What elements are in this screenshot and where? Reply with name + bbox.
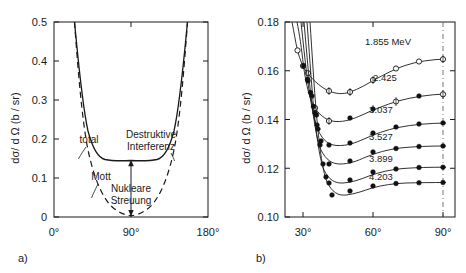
panel-a-ytick-2: 0.3 xyxy=(32,94,47,106)
panel-a-ytick-3: 0.2 xyxy=(32,133,47,145)
panel-b-letter: b) xyxy=(256,252,266,264)
panel-b-ytick-1: 0.16 xyxy=(258,65,279,77)
curve-1855 xyxy=(292,22,446,94)
panel-b-ytick-0: 0.18 xyxy=(258,16,279,28)
curve-label-4203: 4.203 xyxy=(369,171,393,182)
curve-label-3037: 3.037 xyxy=(369,104,393,115)
markers-1855 xyxy=(295,48,446,96)
panel-a-xtick-0: 0° xyxy=(49,226,60,238)
panel-b-ytick-2: 0.14 xyxy=(258,114,279,126)
leader-mott xyxy=(92,184,99,198)
panel-a-xtick-1: 90° xyxy=(123,226,140,238)
curve-label-3527: 3.527 xyxy=(369,131,393,142)
panel-b-ytick-4: 0.10 xyxy=(258,211,279,223)
panel-a: dσ/ d Ω (b / sr) 0.5 0.4 0.3 0.2 0.1 0 0… xyxy=(0,0,233,273)
panel-a-letter: a) xyxy=(18,252,28,264)
panel-a-ytick-1: 0.4 xyxy=(32,55,47,67)
panel-a-ytick-4: 0.1 xyxy=(32,172,47,184)
figure-container: dσ/ d Ω (b / sr) 0.5 0.4 0.3 0.2 0.1 0 0… xyxy=(0,0,466,273)
annotation-destructive-line1: Destruktive xyxy=(126,129,176,140)
panel-a-xtick-2: 180° xyxy=(197,226,220,238)
leader-total xyxy=(79,147,87,159)
panel-b-plot-frame xyxy=(285,22,455,217)
annotation-total: total xyxy=(80,134,99,145)
curve-label-3899: 3.899 xyxy=(369,153,393,164)
panel-b-y-ticks xyxy=(285,22,455,217)
panel-b-ytick-3: 0.12 xyxy=(258,163,279,175)
panel-b-xtick-1: 60° xyxy=(365,226,382,238)
panel-a-ylabel: dσ/ d Ω (b / sr) xyxy=(9,92,21,163)
panel-b-xtick-0: 30° xyxy=(295,226,312,238)
curve-label-2425: 2.425 xyxy=(373,72,397,83)
panel-a-svg: dσ/ d Ω (b / sr) 0.5 0.4 0.3 0.2 0.1 0 0… xyxy=(0,0,233,273)
panel-b: dσ/ d Ω (b / sr) 0.18 0.16 0.14 0.12 0.1… xyxy=(233,0,466,273)
panel-b-xtick-2: 90° xyxy=(435,226,452,238)
annotation-mott: Mott xyxy=(91,171,111,182)
curve-label-1855: 1.855 MeV xyxy=(365,36,412,47)
annotation-nuclear-line1: Nukleare xyxy=(111,183,151,194)
panel-a-ytick-0: 0.5 xyxy=(32,16,47,28)
panel-b-ylabel: dσ/ d Ω (b / sr) xyxy=(240,92,252,163)
panel-b-svg: dσ/ d Ω (b / sr) 0.18 0.16 0.14 0.12 0.1… xyxy=(233,0,466,273)
annotation-destructive-line2: Interferenz xyxy=(127,141,175,152)
annotation-nuclear-line2: Streuung xyxy=(111,195,152,206)
panel-a-ytick-5: 0 xyxy=(41,211,47,223)
